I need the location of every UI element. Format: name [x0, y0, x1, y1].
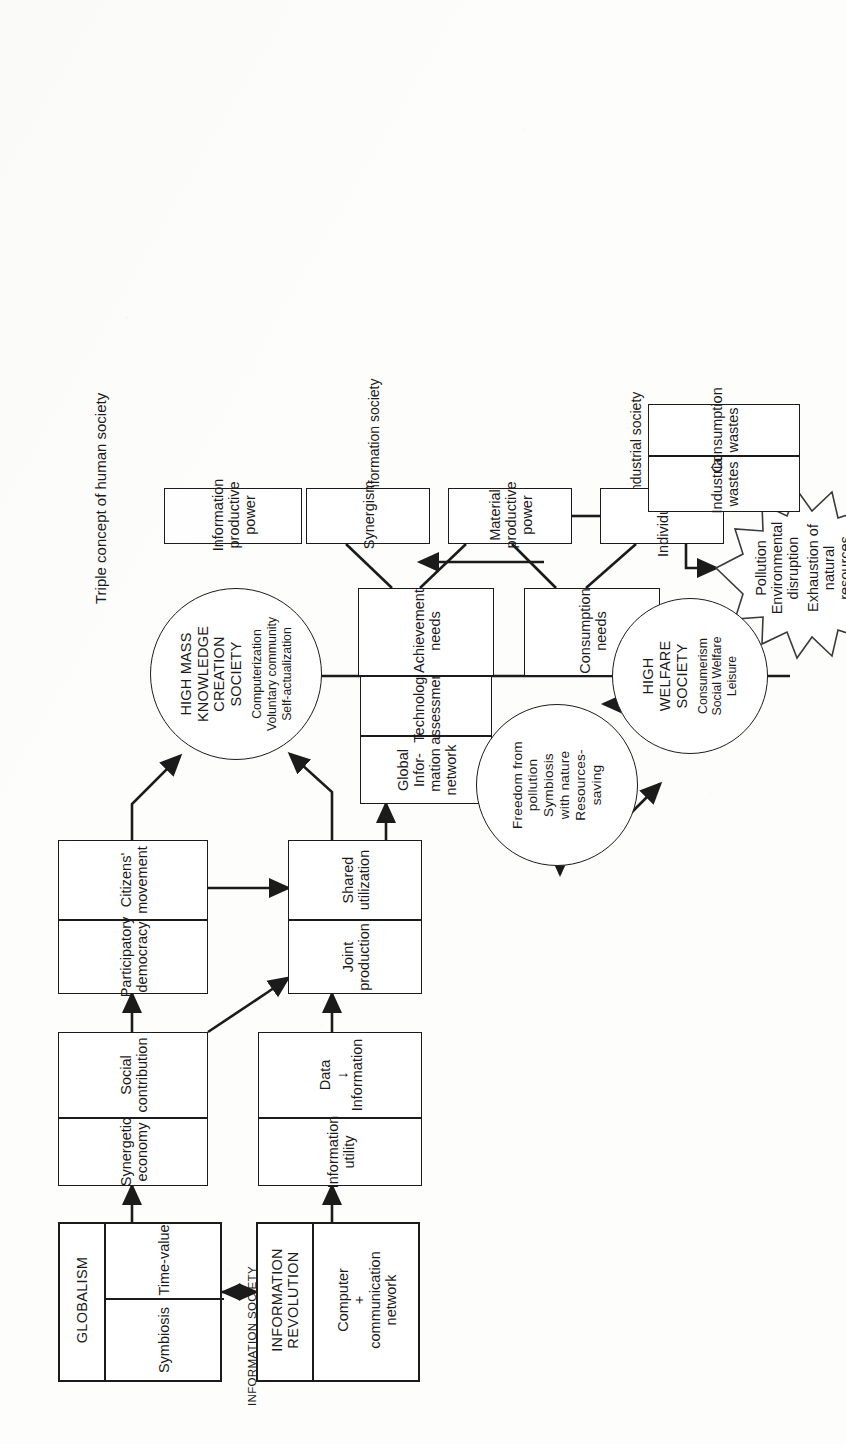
burst-l5: natural — [821, 546, 837, 590]
consumption-needs-l2: needs — [593, 611, 609, 651]
node-globalism: GLOBALISM Symbiosis Time-value — [58, 1222, 222, 1382]
arrow-participatory-to-knowledge-society — [132, 756, 180, 840]
sublabel-information-society: Information society — [366, 379, 382, 497]
inforev-body-line4: network — [383, 1275, 399, 1326]
sublabel-industrial-society: Industrial society — [628, 392, 644, 496]
freedom-l3: Symbiosis — [541, 741, 557, 829]
social-contribution-l1: Social — [118, 1055, 134, 1095]
material-power-l3: power — [519, 495, 535, 535]
node-participatory-democracy: Participatory democracy Citizens' moveme… — [58, 840, 208, 994]
burst-l2: Environmental — [769, 522, 785, 615]
circle-high-mass-knowledge-creation-society: HIGH MASS KNOWLEDGE CREATION SOCIETY Com… — [150, 588, 322, 760]
shared-l1: Shared — [340, 857, 356, 904]
globalinfo-l2: mation network — [427, 740, 459, 800]
node-synergetic-economy: Synergetic economy Social contribution — [58, 1032, 208, 1186]
synergism-text: Synergism — [361, 481, 377, 550]
welfare-subtitle: Consumerism Social Welfare Leisure — [696, 636, 740, 715]
node-material-productive-power: Material productive power — [448, 488, 572, 544]
burst-l1: Pollution — [753, 540, 769, 596]
synergetic-l2: economy — [134, 1123, 150, 1182]
node-achievement-needs: Achievement needs — [358, 588, 494, 676]
globalism-symbiosis: Symbiosis — [104, 1300, 224, 1380]
social-contribution-cell: Social contribution — [59, 1031, 209, 1119]
knowledge-society-subtitle: Computerization Voluntary community Self… — [250, 617, 294, 731]
node-information-revolution: INFORMATION REVOLUTION Computer + commun… — [256, 1222, 420, 1382]
information-label: Information — [349, 1039, 365, 1112]
material-power-l1: Material — [487, 489, 503, 541]
techassess-l2: assessment — [427, 667, 443, 744]
inforev-head-line2: REVOLUTION — [285, 1251, 301, 1348]
ks-sub-3: Self-actualization — [280, 617, 295, 731]
shared-utilization-cell: Shared utilization — [289, 839, 423, 921]
material-power-l2: productive — [503, 482, 519, 549]
burst-l4: Exhaustion of — [805, 524, 821, 612]
information-utility-cell: Information utility — [259, 1119, 423, 1185]
techassess-l1: Technology — [411, 669, 427, 742]
material-power-cell: Material productive power — [449, 487, 573, 543]
consumption-needs-l1: Consumption — [577, 588, 593, 673]
inforev-head-line1: INFORMATION — [269, 1248, 285, 1352]
achievement-needs-cell: Achievement needs — [359, 587, 495, 675]
consumption-wastes-l2: wastes — [725, 407, 741, 452]
consumption-wastes-l1: Consumption — [709, 387, 725, 472]
line-consumption-to-individualism — [586, 544, 636, 588]
globalism-timevalue: Time-value — [104, 1220, 224, 1300]
welfare-title-3: SOCIETY — [674, 641, 691, 712]
technology-assessment-cell: Technology assessment — [361, 675, 493, 737]
welfare-circle-content: HIGH WELFARE SOCIETY Consumerism Social … — [613, 599, 767, 753]
welfare-sub-1: Consumerism — [696, 636, 711, 715]
information-revolution-head: INFORMATION REVOLUTION — [258, 1220, 312, 1380]
knowledge-society-content: HIGH MASS KNOWLEDGE CREATION SOCIETY Com… — [151, 589, 321, 759]
infoutility-l2: utility — [341, 1135, 357, 1168]
data-to-information-cell: Data ↓ Information — [259, 1031, 423, 1119]
welfare-sub-2: Social Welfare — [710, 636, 725, 715]
node-wastes: Industrial wastes Consumption wastes — [648, 404, 800, 512]
participatory-democracy-cell: Participatory democracy — [59, 921, 209, 993]
data-label: Data — [317, 1060, 333, 1091]
welfare-title-2: WELFARE — [657, 641, 674, 712]
ks-title-3: CREATION — [211, 626, 228, 722]
node-information-productive-power: Information productive power — [164, 488, 302, 544]
globalism-head: GLOBALISM — [60, 1220, 104, 1380]
participatory-l1: Participatory — [118, 917, 134, 998]
information-revolution-body: Computer + communication network — [312, 1220, 422, 1380]
freedom-circle-text: Freedom from pollution Symbiosis with na… — [510, 741, 605, 829]
circle-high-welfare-society: HIGH WELFARE SOCIETY Consumerism Social … — [612, 598, 768, 754]
ks-title-1: HIGH MASS — [178, 626, 195, 722]
synergetic-l1: Synergetic — [118, 1118, 134, 1187]
welfare-title-1: HIGH — [640, 641, 657, 712]
shared-l2: utilization — [356, 850, 372, 910]
synergetic-economy-cell: Synergetic economy — [59, 1119, 209, 1185]
achievement-needs-l1: Achievement — [411, 589, 427, 673]
node-synergism-box: Synergism — [306, 488, 430, 544]
freedom-l2: pollution — [525, 741, 541, 829]
globalism-timevalue-text: Time-value — [156, 1224, 172, 1295]
freedom-l1: Freedom from — [510, 741, 526, 829]
line-achievement-to-informationpower — [346, 544, 392, 588]
industrial-wastes-l2: wastes — [725, 461, 741, 506]
knowledge-society-title: HIGH MASS KNOWLEDGE CREATION SOCIETY — [178, 626, 245, 722]
globalinfo-l1: Global Infor- — [395, 740, 427, 800]
arrow-synergetic-to-jointproduction — [208, 978, 288, 1032]
ks-sub-1: Computerization — [250, 617, 265, 731]
information-power-l1: Information — [210, 479, 226, 552]
information-power-l2: productive — [226, 482, 242, 549]
welfare-sub-3: Leisure — [725, 636, 740, 715]
line-achievement-to-synergism — [420, 544, 466, 588]
ks-title-2: KNOWLEDGE — [195, 626, 212, 722]
social-contribution-l2: contribution — [134, 1038, 150, 1113]
citizens-l2: movement — [134, 846, 150, 914]
arrow-jointproduction-to-knowledge-society — [290, 754, 332, 840]
freedom-l6: saving — [589, 741, 605, 829]
inforev-body-line2: + — [351, 1296, 367, 1304]
freedom-l5: Resources- — [573, 741, 589, 829]
achievement-needs-l2: needs — [427, 611, 443, 651]
freedom-l4: with nature — [557, 741, 573, 829]
joint-l1: Joint — [340, 942, 356, 973]
globalism-symbiosis-text: Symbiosis — [156, 1307, 172, 1373]
synergism-cell: Synergism — [307, 487, 431, 543]
diagram-canvas: Triple concept of human society INFORMAT… — [0, 0, 846, 1444]
ks-sub-2: Voluntary community — [265, 617, 280, 731]
ks-title-4: SOCIETY — [228, 626, 245, 722]
figure-title: Triple concept of human society — [92, 393, 109, 604]
